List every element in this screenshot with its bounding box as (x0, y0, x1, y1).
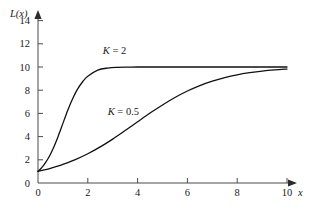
y-axis-ticks (38, 21, 43, 160)
y-axis-arrow-icon (34, 10, 41, 19)
x-axis-tick-label: 4 (135, 187, 141, 198)
x-axis-arrow-icon (288, 180, 297, 187)
y-axis-tick-label: 12 (20, 38, 31, 49)
y-axis-tick-label: 8 (25, 85, 30, 96)
curve-k-0point5 (38, 69, 287, 171)
x-axis-title: x (297, 187, 303, 198)
chart-canvas: 02468101214 0246810 L(x) x K = 2 K = 0.5 (0, 0, 314, 213)
y-axis-tick-label: 10 (20, 62, 31, 73)
x-axis-tick-label: 8 (235, 187, 240, 198)
y-axis-tick-label: 6 (25, 108, 30, 119)
x-axis-tick-label: 0 (35, 187, 40, 198)
curve-k-2 (38, 67, 287, 171)
figure-container: 02468101214 0246810 L(x) x K = 2 K = 0.5 (0, 0, 314, 213)
x-axis-ticks (88, 178, 287, 183)
x-axis-tick-label: 6 (185, 187, 190, 198)
curve-label-k-0point5: K = 0.5 (107, 106, 139, 117)
y-axis-tick-labels: 02468101214 (20, 15, 31, 188)
curve-label-k-2: K = 2 (102, 45, 126, 56)
curves-group (38, 67, 287, 171)
y-axis-tick-label: 4 (25, 131, 31, 142)
y-axis-tick-label: 0 (25, 178, 30, 189)
x-axis-tick-label: 2 (85, 187, 90, 198)
y-axis-tick-label: 2 (25, 154, 30, 165)
y-axis-title: L(x) (9, 8, 28, 20)
x-axis-tick-labels: 0246810 (35, 187, 292, 198)
x-axis-tick-label: 10 (282, 187, 293, 198)
